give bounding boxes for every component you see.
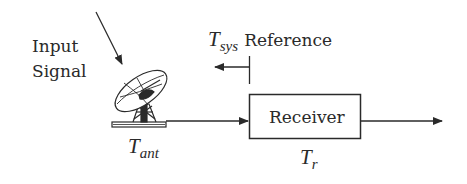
system-temperature-reference-label: Tsys Reference: [208, 29, 332, 50]
antenna-temperature-subscript: ant: [140, 145, 159, 161]
reference-text: Reference: [244, 30, 332, 50]
input-signal-label-line1: Input: [32, 38, 78, 55]
input-signal-arrow: [96, 12, 122, 64]
block-diagram-canvas: [0, 0, 467, 184]
receiver-temperature-label: Tr: [300, 147, 318, 168]
system-temperature-symbol: T: [208, 27, 220, 51]
receiver-label: Receiver: [269, 109, 345, 126]
antenna-temperature-symbol: T: [128, 134, 140, 158]
antenna-temperature-label: Tant: [128, 136, 159, 157]
receiver-temperature-symbol: T: [300, 145, 312, 169]
satellite-dish-icon: [108, 62, 173, 127]
receiver-temperature-subscript: r: [312, 156, 318, 172]
system-temperature-subscript: sys: [220, 38, 238, 54]
input-signal-label-line2: Signal: [32, 63, 87, 80]
